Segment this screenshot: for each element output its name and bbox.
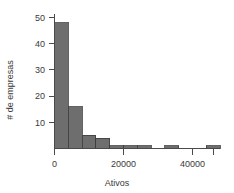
x-axis-title: Ativos <box>105 178 130 188</box>
x-ticks-group: 02000040000 <box>52 149 214 170</box>
x-axis-tick-label: 40000 <box>180 159 205 169</box>
histogram-bar <box>96 138 110 148</box>
y-axis-tick-label: 20 <box>35 91 45 101</box>
y-axis-tick-label: 30 <box>35 65 45 75</box>
x-axis-tick-label: 0 <box>52 159 57 169</box>
y-axis-tick-label: 40 <box>35 39 45 49</box>
plot-area: 1020304050 02000040000 Ativos # de empre… <box>0 0 233 193</box>
y-axis-title: # de empresas <box>5 60 15 120</box>
histogram-figure: 1020304050 02000040000 Ativos # de empre… <box>0 0 233 193</box>
histogram-bar <box>55 23 69 149</box>
bars-group <box>55 23 234 149</box>
y-axis-tick-label: 10 <box>35 118 45 128</box>
y-axis-tick-label: 50 <box>35 13 45 23</box>
x-axis-tick-label: 20000 <box>111 159 136 169</box>
histogram-bar <box>68 107 82 149</box>
histogram-bar <box>82 135 96 148</box>
y-ticks-group: 1020304050 <box>35 13 55 128</box>
chart-svg: 1020304050 02000040000 Ativos # de empre… <box>0 0 233 193</box>
